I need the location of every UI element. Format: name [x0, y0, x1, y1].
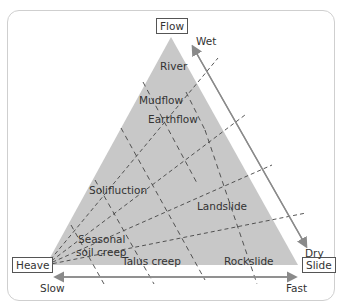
wet-label: Wet: [196, 36, 216, 47]
region-talus-creep: Talus creep: [122, 256, 181, 267]
corner-flow: Flow: [156, 18, 188, 34]
dry-label: Dry: [305, 248, 324, 259]
corner-slide: Slide: [302, 257, 336, 273]
region-solifluction: Solifluction: [89, 185, 147, 196]
region-earthflow: Earthflow: [148, 114, 198, 125]
region-landslide: Landslide: [197, 201, 247, 212]
region-seasonal: Seasonal: [78, 234, 125, 245]
region-river: River: [160, 61, 187, 72]
region-soil-creep: soil creep: [76, 247, 127, 258]
slow-label: Slow: [40, 283, 65, 294]
corner-heave: Heave: [12, 257, 53, 273]
fast-label: Fast: [286, 283, 307, 294]
region-rockslide: Rockslide: [224, 256, 274, 267]
region-mudflow: Mudflow: [139, 95, 183, 106]
